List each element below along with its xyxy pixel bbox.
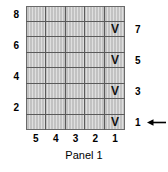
- cell-c4-r7[interactable]: [46, 22, 66, 38]
- cell-c2-r8[interactable]: [85, 6, 105, 22]
- column-label-5: 5: [33, 134, 39, 144]
- cell-c4-r2[interactable]: [46, 99, 66, 115]
- cell-c4-r3[interactable]: [46, 84, 66, 100]
- cell-c1-r1[interactable]: V: [105, 115, 125, 131]
- cell-c3-r5[interactable]: [66, 53, 86, 69]
- cell-c3-r4[interactable]: [66, 68, 86, 84]
- cell-c4-r6[interactable]: [46, 37, 66, 53]
- cell-c5-r1[interactable]: [26, 115, 46, 131]
- row-label-right-3: 3: [135, 87, 141, 97]
- cell-c2-r7[interactable]: [85, 22, 105, 38]
- cell-c1-r5[interactable]: V: [105, 53, 125, 69]
- cell-c3-r3[interactable]: [66, 84, 86, 100]
- row-label-right-5: 5: [135, 56, 141, 66]
- cell-c3-r6[interactable]: [66, 37, 86, 53]
- v-marker-row-7: V: [111, 22, 119, 34]
- cell-c5-r7[interactable]: [26, 22, 46, 38]
- v-marker-row-1: V: [111, 116, 119, 128]
- cell-c2-r2[interactable]: [85, 99, 105, 115]
- cell-c2-r6[interactable]: [85, 37, 105, 53]
- cell-c3-r8[interactable]: [66, 6, 86, 22]
- column-label-1: 1: [112, 134, 118, 144]
- cell-c3-r1[interactable]: [66, 115, 86, 131]
- row-label-right-1: 1: [135, 118, 141, 128]
- column-label-2: 2: [93, 134, 99, 144]
- cell-c4-r4[interactable]: [46, 68, 66, 84]
- row-label-left-4: 4: [13, 72, 19, 82]
- cell-c3-r2[interactable]: [66, 99, 86, 115]
- cell-c1-r3[interactable]: V: [105, 84, 125, 100]
- cell-c5-r5[interactable]: [26, 53, 46, 69]
- cell-c5-r3[interactable]: [26, 84, 46, 100]
- cell-c2-r1[interactable]: [85, 115, 105, 131]
- cell-c5-r4[interactable]: [26, 68, 46, 84]
- cell-c5-r2[interactable]: [26, 99, 46, 115]
- v-marker-row-3: V: [111, 84, 119, 96]
- row-1-arrow-icon: [147, 118, 167, 127]
- row-label-left-6: 6: [13, 41, 19, 51]
- column-label-4: 4: [53, 134, 59, 144]
- grid-wrapper: V V: [26, 6, 125, 130]
- cell-c4-r1[interactable]: [46, 115, 66, 131]
- cell-c2-r5[interactable]: [85, 53, 105, 69]
- panel-caption: Panel 1: [0, 150, 168, 161]
- cell-c5-r6[interactable]: [26, 37, 46, 53]
- cell-c4-r5[interactable]: [46, 53, 66, 69]
- row-label-right-7: 7: [135, 25, 141, 35]
- cell-c1-r6[interactable]: [105, 37, 125, 53]
- cell-grid: V V: [26, 6, 125, 130]
- column-label-3: 3: [73, 134, 79, 144]
- cell-c3-r7[interactable]: [66, 22, 86, 38]
- panel-figure: V V: [0, 0, 168, 172]
- cell-c2-r3[interactable]: [85, 84, 105, 100]
- cell-c1-r2[interactable]: [105, 99, 125, 115]
- cell-c2-r4[interactable]: [85, 68, 105, 84]
- row-label-left-2: 2: [13, 103, 19, 113]
- row-label-left-8: 8: [13, 10, 19, 20]
- cell-c1-r8[interactable]: [105, 6, 125, 22]
- cell-c1-r4[interactable]: [105, 68, 125, 84]
- v-marker-row-5: V: [111, 53, 119, 65]
- cell-c1-r7[interactable]: V: [105, 22, 125, 38]
- cell-c4-r8[interactable]: [46, 6, 66, 22]
- cell-c5-r8[interactable]: [26, 6, 46, 22]
